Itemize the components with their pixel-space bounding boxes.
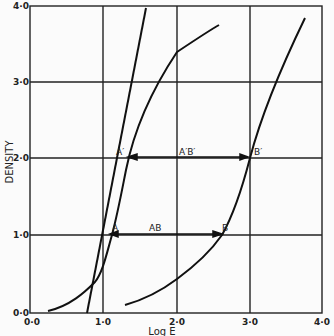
x-tick-3: 3·0 [242,317,258,327]
label-a-prime: A′ [116,147,124,157]
label-ab: AB [149,223,161,233]
x-axis-title: Log E [148,326,175,336]
y-tick-3: 3·0 [13,77,29,87]
x-tick-4: 4·0 [314,317,330,327]
x-ticks: 0·0 1·0 2·0 3·0 4·0 [24,317,330,327]
x-tick-0: 0·0 [24,317,40,327]
label-a: A [112,223,119,233]
y-ticks: 4·0 3·0 2·0 1·0 0·0 [13,1,29,318]
arrowhead-b2 [240,154,248,160]
label-a-prime-b-prime: A′B′ [179,147,195,157]
y-tick-2: 2·0 [13,153,29,163]
curve-2 [125,18,305,305]
y-tick-4: 4·0 [13,1,29,11]
y-axis-title: DENSITY [4,140,15,184]
chart: A AB B A′ A′B′ B′ 4·0 3·0 2·0 1·0 0·0 0·… [0,0,334,336]
label-b: B [222,223,228,233]
y-tick-1: 1·0 [13,230,29,240]
label-b-prime: B′ [254,147,262,157]
x-tick-1: 1·0 [95,317,111,327]
